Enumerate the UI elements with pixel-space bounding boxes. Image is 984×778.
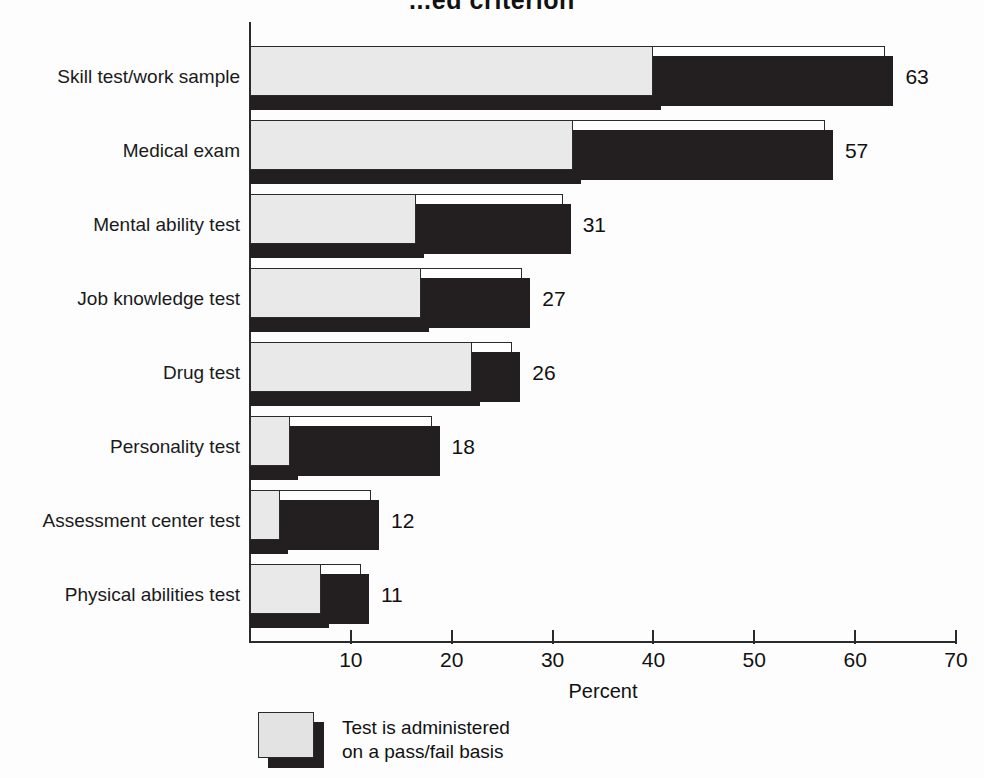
bar-value-label: 26 — [532, 361, 555, 385]
bar-subset — [250, 268, 421, 318]
bar-row: Medical exam57 — [250, 114, 956, 188]
bar-row: Drug test26 — [250, 336, 956, 410]
bar-subset — [250, 490, 280, 540]
bar-subset-shadow — [250, 392, 480, 406]
chart-title: ...ed criterion — [0, 0, 984, 15]
category-label: Physical abilities test — [65, 584, 240, 606]
bar-subset-shadow — [250, 318, 429, 332]
bar-value-label: 18 — [452, 435, 475, 459]
category-label: Medical exam — [123, 140, 240, 162]
category-label: Skill test/work sample — [57, 66, 240, 88]
x-axis-tick — [854, 630, 856, 644]
bar-value-label: 11 — [381, 583, 403, 607]
bar-subset — [250, 194, 416, 244]
category-label: Personality test — [110, 436, 240, 458]
x-axis-tick-label: 30 — [541, 648, 564, 672]
x-axis-tick-label: 70 — [944, 648, 967, 672]
x-axis-tick-label: 60 — [843, 648, 866, 672]
chart-legend: Test is administered on a pass/fail basi… — [258, 712, 510, 768]
x-axis-line — [249, 641, 956, 643]
bar-subset-shadow — [250, 466, 298, 480]
bar-subset — [250, 342, 472, 392]
legend-swatch-passfail — [258, 712, 324, 768]
bar-value-label: 63 — [905, 65, 928, 89]
bar-subset-shadow — [250, 96, 661, 110]
x-axis-tick-label: 40 — [642, 648, 665, 672]
bar-row: Mental ability test31 — [250, 188, 956, 262]
x-axis-tick-label: 10 — [339, 648, 362, 672]
bar-subset-shadow — [250, 170, 581, 184]
x-axis-tick — [451, 630, 453, 644]
x-axis-title: Percent — [250, 680, 956, 703]
category-label: Job knowledge test — [77, 288, 240, 310]
x-axis-tick — [753, 630, 755, 644]
legend-swatch-face — [258, 712, 314, 758]
bar-subset-shadow — [250, 614, 329, 628]
bar-subset-shadow — [250, 540, 288, 554]
bar-subset — [250, 46, 653, 96]
category-label: Drug test — [163, 362, 240, 384]
bar-value-label: 57 — [845, 139, 868, 163]
x-axis-tick — [350, 630, 352, 644]
bar-subset — [250, 416, 290, 466]
legend-label-passfail: Test is administered on a pass/fail basi… — [342, 712, 510, 764]
plot-area: Skill test/work sample63Medical exam57Me… — [250, 22, 956, 642]
bar-subset — [250, 564, 321, 614]
bar-row: Skill test/work sample63 — [250, 40, 956, 114]
bar-subset-shadow — [250, 244, 424, 258]
legend-label-line1: Test is administered — [342, 716, 510, 740]
bar-value-label: 31 — [583, 213, 606, 237]
x-axis-tick — [652, 630, 654, 644]
category-label: Assessment center test — [43, 510, 240, 532]
bar-row: Physical abilities test11 — [250, 558, 956, 632]
x-axis-tick-label: 20 — [440, 648, 463, 672]
bar-value-label: 12 — [391, 509, 414, 533]
bar-row: Job knowledge test27 — [250, 262, 956, 336]
bar-subset — [250, 120, 573, 170]
legend-label-line2: on a pass/fail basis — [342, 740, 510, 764]
category-label: Mental ability test — [93, 214, 240, 236]
x-axis-tick-label: 50 — [743, 648, 766, 672]
x-axis-tick — [955, 630, 957, 644]
x-axis-tick — [552, 630, 554, 644]
bar-row: Assessment center test12 — [250, 484, 956, 558]
bar-row: Personality test18 — [250, 410, 956, 484]
bar-value-label: 27 — [542, 287, 565, 311]
